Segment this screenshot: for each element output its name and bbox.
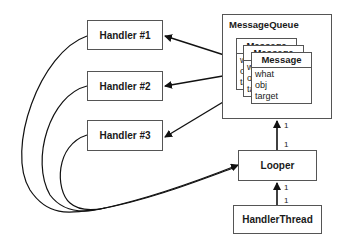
handler-thread-label: HandlerThread xyxy=(242,214,313,225)
looper-label: Looper xyxy=(261,160,295,171)
message-field-target: target xyxy=(255,91,311,102)
handler-thread-box: HandlerThread xyxy=(233,205,322,234)
multiplicity-looper-to-queue: 1 xyxy=(284,140,288,149)
message-queue-title: MessageQueue xyxy=(229,19,299,30)
multiplicity-queue-end: 1 xyxy=(284,121,288,130)
message-box-front: Message what obj target xyxy=(251,52,312,104)
handler-1-box: Handler #1 xyxy=(87,20,163,50)
handler-2-label: Handler #2 xyxy=(99,81,150,92)
multiplicity-thread-end: 1 xyxy=(284,196,288,205)
multiplicity-looper-to-thread: 1 xyxy=(284,183,288,192)
handler-2-box: Handler #2 xyxy=(87,71,163,101)
handler-3-box: Handler #3 xyxy=(87,120,163,151)
message-field-obj: obj xyxy=(255,80,311,91)
message-field-what: what xyxy=(255,69,311,80)
handler-1-label: Handler #1 xyxy=(99,30,150,41)
handler-3-label: Handler #3 xyxy=(99,130,150,141)
message-title: Message xyxy=(252,53,311,68)
looper-box: Looper xyxy=(238,150,317,181)
